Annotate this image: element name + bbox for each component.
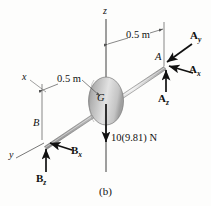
free-body-diagram-figure: z x y 0.5 m 0.5 m A B G Ay Ax Az Bx Bz 1… [0, 0, 211, 206]
axis-label-x: x [22, 72, 26, 82]
force-label-Bz: Bz [36, 173, 46, 184]
force-label-Ax: Ax [189, 64, 201, 75]
force-label-Bx: Bx [71, 145, 82, 156]
force-symbol-Ax: A [189, 63, 197, 75]
force-subscript-Ax: x [197, 69, 201, 78]
dimension-label-left: 0.5 m [57, 74, 81, 85]
force-subscript-Ay: y [198, 35, 201, 44]
weight-label: 10(9.81) N [111, 133, 157, 144]
force-label-Ay: Ay [190, 30, 201, 41]
force-Bx-arrow [50, 143, 72, 150]
force-subscript-Bx: x [78, 150, 82, 159]
force-subscript-Az: z [166, 98, 169, 107]
dimension-label-right: 0.5 m [126, 30, 150, 41]
force-symbol-Az: A [158, 92, 166, 104]
force-symbol-Ay: A [190, 29, 198, 41]
axis-label-y: y [9, 150, 13, 160]
axis-label-z: z [103, 6, 107, 16]
y-axis [16, 143, 44, 158]
point-label-A: A [155, 52, 161, 63]
force-Ay-arrow [167, 44, 192, 62]
force-label-Az: Az [158, 93, 169, 104]
point-label-B: B [33, 118, 39, 129]
figure-caption: (b) [0, 186, 211, 197]
point-label-G: G [97, 93, 105, 104]
diagram-canvas [0, 0, 211, 206]
x-axis [30, 80, 46, 92]
